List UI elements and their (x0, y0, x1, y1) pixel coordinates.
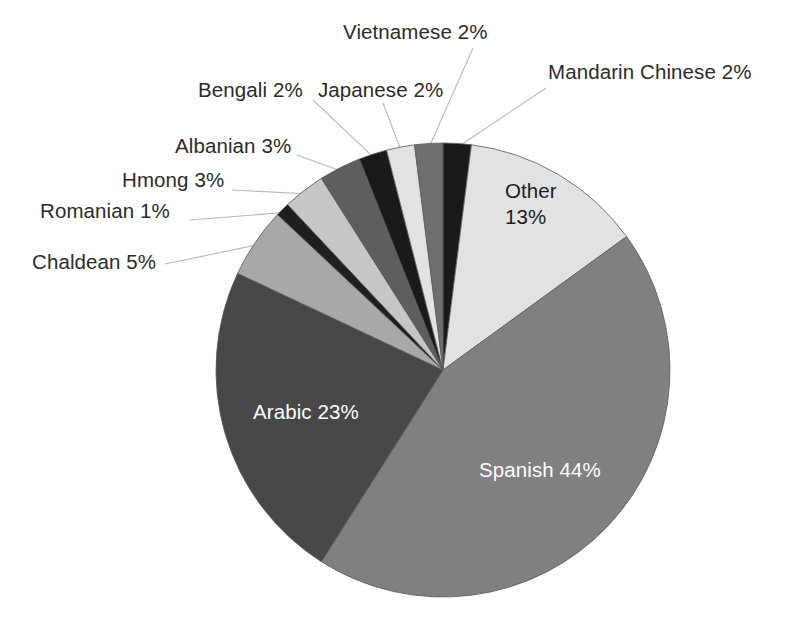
slice-label-other-line2: 13% (505, 204, 557, 230)
slice-label-other: Other 13% (505, 178, 557, 230)
slice-label-bengali: Bengali 2% (198, 78, 303, 102)
slice-label-albanian: Albanian 3% (175, 134, 291, 158)
leader-line-mandarin-chinese (457, 88, 546, 147)
pie-chart-page: Vietnamese 2% Mandarin Chinese 2% Bengal… (0, 0, 786, 630)
slice-label-vietnamese: Vietnamese 2% (343, 20, 488, 44)
leader-line-hmong (232, 190, 306, 194)
slice-label-arabic: Arabic 23% (253, 400, 359, 424)
slice-label-chaldean: Chaldean 5% (32, 250, 156, 274)
leader-line-japanese (383, 103, 401, 151)
leader-line-albanian (297, 155, 342, 171)
slice-label-spanish: Spanish 44% (479, 458, 601, 482)
slice-label-other-line1: Other (505, 179, 557, 202)
slice-label-romanian: Romanian 1% (40, 199, 170, 223)
slice-label-mandarin-chinese: Mandarin Chinese 2% (548, 60, 752, 84)
slice-label-hmong: Hmong 3% (122, 168, 224, 192)
leader-line-romanian (190, 212, 285, 220)
slice-label-japanese: Japanese 2% (318, 78, 443, 102)
pie-slice-group (216, 143, 670, 597)
leader-line-bengali (313, 100, 374, 158)
